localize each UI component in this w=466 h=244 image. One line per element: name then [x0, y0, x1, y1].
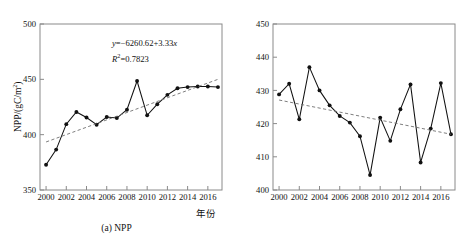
x-tick-label: 2004 [78, 192, 96, 202]
data-point [419, 160, 423, 164]
x-tick-label: 2006 [331, 192, 349, 202]
x-tick-label: 2000 [37, 192, 54, 202]
et-plot-svg: 4004104204304404502000200220042006200820… [233, 0, 466, 244]
data-point [85, 116, 89, 120]
x-tick-label: 2012 [159, 192, 176, 202]
x-tick-label: 2008 [351, 192, 368, 202]
data-point [176, 86, 180, 90]
x-tick-label: 2006 [98, 192, 116, 202]
data-point [398, 107, 402, 111]
data-line [46, 81, 218, 165]
y-tick-label: 440 [256, 52, 269, 62]
x-tick-label: 2016 [199, 192, 217, 202]
data-point [348, 121, 352, 125]
data-point [388, 139, 392, 143]
y-tick-label: 500 [23, 19, 36, 29]
y-tick-label: 400 [23, 130, 36, 140]
data-point [44, 163, 48, 167]
data-point [54, 148, 58, 152]
data-point [318, 88, 322, 92]
data-line [279, 67, 451, 175]
data-point [125, 108, 129, 112]
y-tick-label: 450 [256, 19, 269, 29]
y-tick-label: 430 [256, 86, 269, 96]
npp-regression-equation: y=−6260.62+3.33x [112, 38, 177, 48]
trend-line [46, 79, 218, 142]
data-point [287, 82, 291, 86]
x-tick-label: 2014 [179, 192, 197, 202]
data-point [338, 114, 342, 118]
x-tick-label: 2000 [270, 192, 287, 202]
plot-frame [273, 24, 455, 190]
data-point [186, 85, 190, 89]
y-tick-label: 420 [256, 119, 269, 129]
x-tick-label: 2012 [392, 192, 409, 202]
data-point [95, 123, 99, 127]
data-point [74, 110, 78, 114]
trend-line [279, 100, 451, 134]
data-point [409, 82, 413, 86]
data-point [155, 102, 159, 106]
x-tick-label: 2008 [118, 192, 135, 202]
data-point [206, 85, 210, 89]
x-tick-label: 2010 [372, 192, 389, 202]
x-tick-label: 2002 [291, 192, 308, 202]
npp-r-squared: R2=0.7823 [112, 52, 149, 64]
figure-root: 3504004505002000200220042006200820102012… [0, 0, 466, 244]
x-tick-label: 2002 [58, 192, 75, 202]
data-point [135, 79, 139, 83]
x-tick-label: 2004 [311, 192, 329, 202]
data-point [378, 116, 382, 120]
data-point [277, 92, 281, 96]
data-point [307, 65, 311, 69]
x-tick-label: 2014 [412, 192, 430, 202]
data-point [297, 117, 301, 121]
chart-panel-et: 4004104204304404502000200220042006200820… [233, 0, 466, 244]
data-point [165, 93, 169, 97]
data-point [216, 85, 220, 89]
data-point [145, 113, 149, 117]
npp-y-axis-title: NPP/(gC/m2) [12, 81, 23, 132]
data-point [439, 81, 443, 85]
data-point [64, 122, 68, 126]
y-tick-label: 350 [23, 185, 36, 195]
data-point [328, 103, 332, 107]
npp-caption: (a) NPP [0, 223, 233, 233]
y-tick-label: 410 [256, 152, 269, 162]
chart-panel-npp: 3504004505002000200220042006200820102012… [0, 0, 233, 244]
x-tick-label: 2010 [139, 192, 156, 202]
data-point [105, 115, 109, 119]
plot-frame [40, 24, 222, 190]
y-tick-label: 450 [23, 74, 36, 84]
y-tick-label: 400 [256, 185, 269, 195]
data-point [358, 134, 362, 138]
data-point [368, 173, 372, 177]
npp-x-axis-title: 年份 [196, 206, 216, 220]
x-tick-label: 2016 [432, 192, 450, 202]
